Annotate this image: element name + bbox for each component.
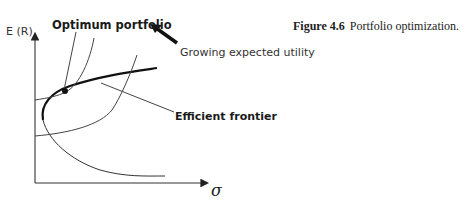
caption-text: Portfolio optimization. [350, 19, 459, 33]
optimum-point [62, 88, 68, 94]
optimum-portfolio-label: Optimum portfolio [52, 18, 172, 32]
efficient-frontier-label: Efficient frontier [175, 110, 277, 123]
indifference-curve-1 [35, 55, 137, 136]
efficient-frontier-curve [43, 68, 157, 120]
growing-utility-label: Growing expected utility [180, 46, 315, 59]
caption-number: Figure 4.6 [293, 19, 345, 33]
frontier-pointer-line [101, 83, 174, 112]
figure-caption: Figure 4.6Portfolio optimization. [293, 19, 459, 34]
optimum-pointer-line [64, 32, 76, 90]
x-axis-label: σ [211, 181, 222, 200]
y-axis-label: E (R) [6, 25, 33, 38]
frontier-lower-branch [43, 120, 165, 176]
